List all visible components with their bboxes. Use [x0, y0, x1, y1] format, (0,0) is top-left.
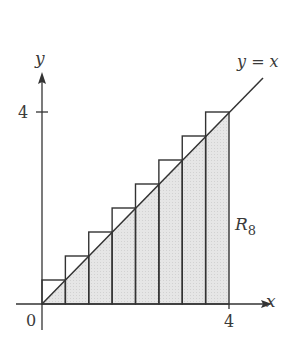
x-axis-label: x — [266, 291, 276, 311]
x-tick-label-4: 4 — [224, 312, 234, 331]
function-label: y = x — [236, 52, 279, 71]
origin-label: 0 — [26, 311, 36, 330]
region-label-subscript: 8 — [248, 223, 256, 238]
y-axis — [36, 72, 48, 330]
riemann-sum-diagram: y x 4 4 0 y = x R8 — [0, 0, 283, 337]
region-label: R8 — [234, 214, 256, 238]
y-axis-label: y — [34, 48, 45, 68]
region-label-letter: R — [234, 214, 248, 234]
y-tick-label-4: 4 — [18, 103, 28, 122]
